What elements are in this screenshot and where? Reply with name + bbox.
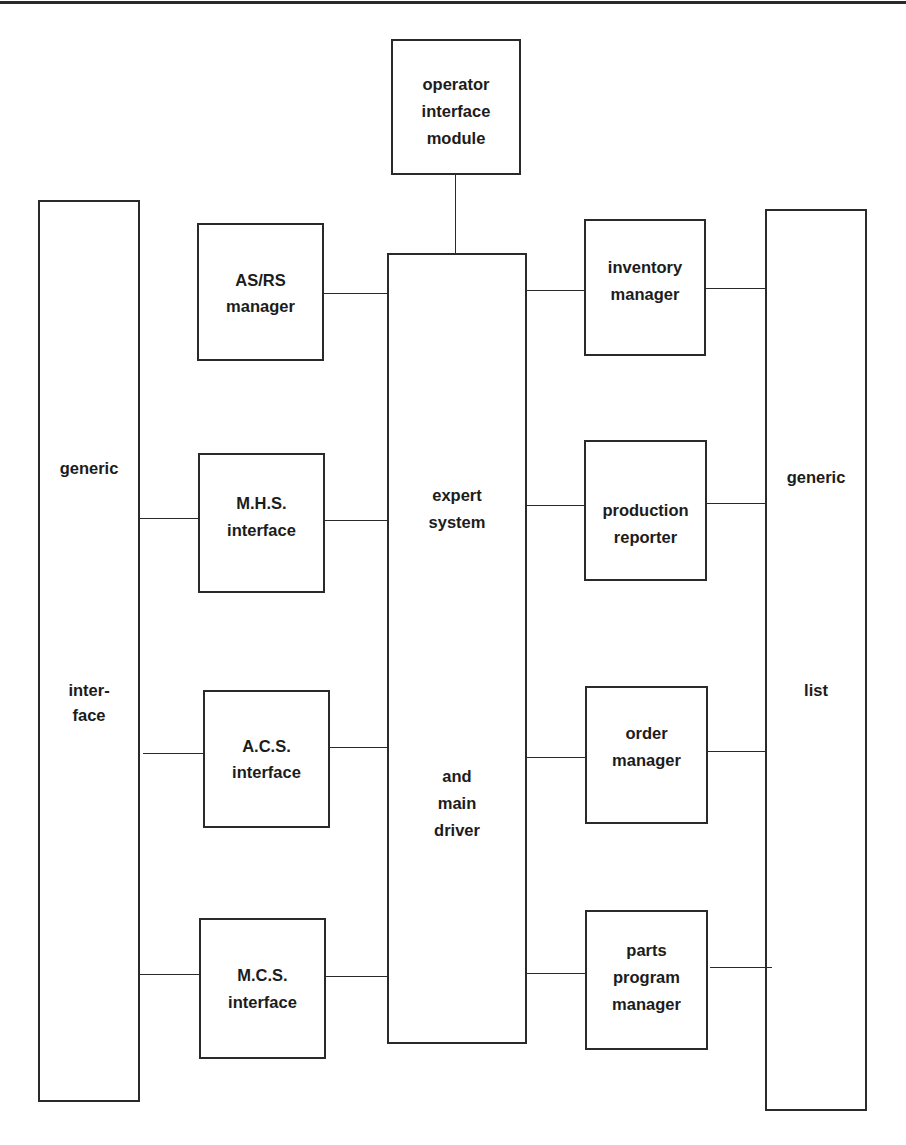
- parts-program-manager-box: parts program manager: [585, 910, 708, 1050]
- connector-generic-to-mhs: [140, 518, 198, 519]
- generic-list-label-bottom: list: [767, 677, 865, 704]
- expert-system-line-2: system: [389, 509, 525, 536]
- operator-module-line-3: module: [393, 125, 519, 152]
- operator-module-line-2: interface: [393, 98, 519, 125]
- parts-program-manager-line-1: parts: [587, 937, 706, 964]
- main-driver-line-3: driver: [389, 817, 525, 844]
- connector-acs-to-expert: [330, 747, 387, 748]
- generic-list-label-top: generic: [767, 464, 865, 491]
- parts-program-manager-line-2: program: [587, 964, 706, 991]
- generic-list-column: generic list: [765, 209, 867, 1111]
- acs-interface-line-1: A.C.S.: [205, 733, 328, 760]
- connector-expert-to-order: [527, 757, 585, 758]
- expert-system-line-1: expert: [389, 482, 525, 509]
- inventory-manager-line-2: manager: [586, 281, 704, 308]
- order-manager-box: order manager: [585, 686, 708, 824]
- acs-interface-box: A.C.S. interface: [203, 690, 330, 828]
- main-driver-line-2: main: [389, 790, 525, 817]
- connector-expert-to-parts: [527, 973, 585, 974]
- mcs-interface-line-1: M.C.S.: [201, 962, 324, 989]
- inventory-manager-box: inventory manager: [584, 219, 706, 356]
- mhs-interface-line-2: interface: [200, 517, 323, 544]
- inventory-manager-line-1: inventory: [586, 254, 704, 281]
- generic-interface-label-line-2: face: [40, 702, 138, 729]
- asrs-manager-line-1: AS/RS: [199, 267, 322, 294]
- generic-interface-label-top: generic: [40, 455, 138, 482]
- mhs-interface-line-1: M.H.S.: [200, 490, 323, 517]
- main-driver-line-1: and: [389, 763, 525, 790]
- production-reporter-box: production reporter: [584, 440, 707, 581]
- page-top-rule: [0, 1, 906, 4]
- connector-inventory-to-list: [706, 288, 765, 289]
- parts-program-manager-line-3: manager: [587, 991, 706, 1018]
- connector-asrs-to-expert: [324, 293, 387, 294]
- order-manager-line-1: order: [587, 720, 706, 747]
- generic-interface-label-line-1: inter-: [40, 677, 138, 704]
- mhs-interface-box: M.H.S. interface: [198, 453, 325, 593]
- acs-interface-line-2: interface: [205, 759, 328, 786]
- operator-module-line-1: operator: [393, 71, 519, 98]
- asrs-manager-line-2: manager: [199, 293, 322, 320]
- connector-generic-to-mcs: [140, 974, 199, 975]
- production-reporter-line-2: reporter: [586, 524, 705, 551]
- connector-expert-to-production: [527, 505, 584, 506]
- mcs-interface-line-2: interface: [201, 989, 324, 1016]
- connector-generic-to-acs: [143, 753, 203, 754]
- connector-operator-to-expert: [455, 175, 456, 254]
- connector-parts-to-list: [710, 967, 772, 968]
- connector-production-to-list: [707, 503, 765, 504]
- connector-mcs-to-expert: [326, 976, 387, 977]
- production-reporter-line-1: production: [586, 497, 705, 524]
- asrs-manager-box: AS/RS manager: [197, 223, 324, 361]
- generic-interface-column: generic inter- face: [38, 200, 140, 1102]
- connector-order-to-list: [708, 751, 765, 752]
- connector-mhs-to-expert: [325, 520, 387, 521]
- order-manager-line-2: manager: [587, 747, 706, 774]
- mcs-interface-box: M.C.S. interface: [199, 918, 326, 1059]
- connector-expert-to-inventory: [527, 290, 584, 291]
- operator-interface-module-box: operator interface module: [391, 39, 521, 175]
- expert-system-main-driver-box: expert system and main driver: [387, 253, 527, 1044]
